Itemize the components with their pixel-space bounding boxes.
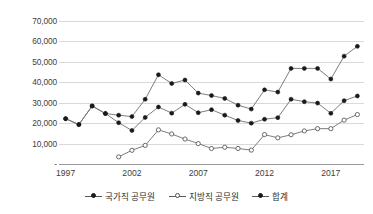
y-tick-label: 40,000	[32, 77, 57, 87]
y-tick-label: 60,000	[32, 36, 57, 46]
chart-legend: 국가직 공무원지방직 공무원합계	[0, 190, 373, 202]
y-tick-label: 10,000	[32, 139, 57, 149]
legend-label: 합계	[272, 190, 288, 202]
data-point	[276, 90, 280, 94]
data-point	[223, 113, 227, 117]
line-chart: -10,00020,00030,00040,00050,00060,00070,…	[0, 0, 373, 214]
data-point	[302, 129, 306, 133]
plot-area	[59, 21, 364, 164]
data-point	[223, 96, 227, 100]
data-point	[90, 104, 94, 108]
data-point	[262, 132, 266, 136]
y-tick-label: 70,000	[32, 16, 57, 26]
series-layer	[59, 21, 364, 164]
data-point	[196, 111, 200, 115]
data-point	[143, 115, 147, 119]
series-filled-circle	[64, 44, 360, 126]
data-point	[249, 148, 253, 152]
data-point	[117, 155, 121, 159]
data-point	[210, 108, 214, 112]
data-point	[329, 127, 333, 131]
data-point	[289, 97, 293, 101]
filled-circle-icon	[252, 192, 269, 201]
series-line	[66, 46, 358, 124]
x-tick-label: 2017	[321, 168, 340, 178]
data-point	[249, 107, 253, 111]
data-point	[302, 66, 306, 70]
x-tick-label: 2012	[255, 168, 274, 178]
data-point	[77, 123, 81, 127]
data-point	[117, 121, 121, 125]
data-point	[64, 117, 68, 121]
hollow-circle-icon	[169, 192, 186, 201]
data-point	[209, 146, 213, 150]
data-point	[302, 100, 306, 104]
legend-item[interactable]: 합계	[252, 190, 288, 202]
x-tick-label: 2002	[122, 168, 141, 178]
data-point	[289, 66, 293, 70]
data-point	[329, 111, 333, 115]
data-point	[156, 128, 160, 132]
data-point	[156, 73, 160, 77]
x-tick-label: 2007	[189, 168, 208, 178]
data-point	[103, 112, 107, 116]
legend-item[interactable]: 지방직 공무원	[169, 190, 239, 202]
data-point	[183, 137, 187, 141]
y-tick-label: 30,000	[32, 98, 57, 108]
data-point	[130, 129, 134, 133]
data-point	[223, 145, 227, 149]
data-point	[117, 113, 121, 117]
data-point	[170, 132, 174, 136]
data-point	[276, 136, 280, 140]
data-point	[276, 116, 280, 120]
series-filled-circle	[64, 94, 360, 133]
series-line	[66, 96, 358, 131]
data-point	[236, 103, 240, 107]
data-point	[130, 148, 134, 152]
data-point	[342, 54, 346, 58]
filled-circle-icon	[85, 192, 102, 201]
data-point	[236, 146, 240, 150]
data-point	[316, 66, 320, 70]
data-point	[263, 117, 267, 121]
y-tick-label: 50,000	[32, 57, 57, 67]
legend-label: 지방직 공무원	[189, 190, 239, 202]
data-point	[183, 102, 187, 106]
data-point	[170, 111, 174, 115]
data-point	[289, 133, 293, 137]
data-point	[183, 78, 187, 82]
data-point	[156, 105, 160, 109]
data-point	[355, 44, 359, 48]
data-point	[196, 91, 200, 95]
data-point	[342, 118, 346, 122]
data-point	[355, 112, 359, 116]
data-point	[143, 97, 147, 101]
data-point	[316, 101, 320, 105]
data-point	[143, 143, 147, 147]
data-point	[249, 121, 253, 125]
data-point	[210, 94, 214, 98]
legend-label: 국가직 공무원	[105, 190, 155, 202]
data-point	[236, 118, 240, 122]
data-point	[263, 88, 267, 92]
x-axis-line	[59, 164, 364, 165]
data-point	[130, 115, 134, 119]
data-point	[342, 99, 346, 103]
data-point	[315, 127, 319, 131]
data-point	[170, 82, 174, 86]
data-point	[196, 141, 200, 145]
data-point	[355, 94, 359, 98]
legend-item[interactable]: 국가직 공무원	[85, 190, 155, 202]
y-tick-label: 20,000	[32, 118, 57, 128]
data-point	[329, 77, 333, 81]
x-tick-label: 1997	[56, 168, 75, 178]
